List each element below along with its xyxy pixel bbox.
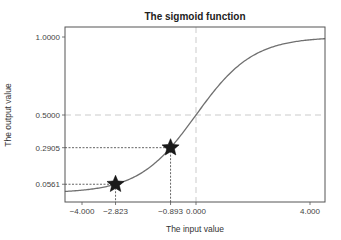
chart-title: The sigmoid function (144, 11, 245, 22)
y-tick-label: 1.0000 (36, 33, 61, 42)
y-tick-label: 0.0561 (36, 180, 61, 189)
y-tick-label: 0.5000 (36, 111, 61, 120)
y-axis-label: The output value (3, 83, 13, 147)
chart-svg: The sigmoid function −4.000−2.823−0.8930… (0, 0, 341, 240)
y-tick-label: 0.2905 (36, 144, 61, 153)
x-tick-label: 0.000 (186, 207, 207, 216)
x-tick-label: −4.000 (70, 207, 95, 216)
x-tick-label: −0.893 (158, 207, 183, 216)
plot-area: −4.000−2.823−0.8930.0004.0000.05610.2905… (36, 27, 326, 216)
sigmoid-chart: The sigmoid function −4.000−2.823−0.8930… (0, 0, 341, 240)
x-tick-label: −2.823 (103, 207, 128, 216)
x-tick-label: 4.000 (300, 207, 321, 216)
x-axis-label: The input value (166, 224, 224, 234)
